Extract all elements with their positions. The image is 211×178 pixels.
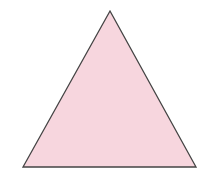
triangle-figure — [0, 0, 211, 178]
diagram-canvas — [0, 0, 211, 178]
triangle-shape — [23, 11, 196, 167]
